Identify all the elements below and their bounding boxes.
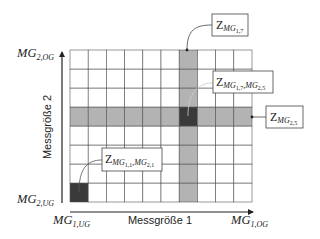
grid-cell: [197, 183, 215, 202]
grid-cell: [234, 145, 252, 164]
grid-cell: [234, 164, 252, 183]
row-callout: ZMG2,5: [252, 106, 303, 128]
grid-cell: [106, 183, 124, 202]
grid-cell: [197, 164, 215, 183]
grid-cell: [197, 126, 215, 145]
grid-cell: [197, 145, 215, 164]
grid-cell: [143, 183, 161, 202]
grid-cell: [143, 88, 161, 107]
grid-cell: [161, 69, 179, 88]
grid-cell: [70, 50, 88, 69]
zone-grid-diagram: MG2,OG MG2,UG Messgröße 2 MG1,UG Messgrö…: [0, 0, 320, 239]
grid-cell: [161, 126, 179, 145]
grid-cell: [197, 50, 215, 69]
grid-cell: [125, 183, 143, 202]
grid-cell: [161, 107, 179, 126]
grid-cell: [216, 50, 234, 69]
grid-cell: [234, 50, 252, 69]
grid-cell: [216, 126, 234, 145]
grid-cell: [143, 107, 161, 126]
grid-cell: [106, 50, 124, 69]
grid-cell: [161, 145, 179, 164]
grid-cell: [88, 183, 106, 202]
column-callout-connector: [187, 25, 212, 50]
grid-cell: [70, 88, 88, 107]
grid-cell: [216, 107, 234, 126]
grid-cell: [197, 107, 215, 126]
grid-cell: [234, 183, 252, 202]
x-axis-title: Messgröße 1: [128, 214, 192, 226]
grid-cell: [179, 145, 197, 164]
grid-cell: [179, 164, 197, 183]
grid-cell: [143, 69, 161, 88]
grid-cell: [125, 69, 143, 88]
grid-cell: [216, 164, 234, 183]
grid-cell: [234, 126, 252, 145]
grid-cell: [179, 126, 197, 145]
grid-cell: [143, 126, 161, 145]
grid-cell: [88, 69, 106, 88]
y-axis-max-label: MG2,OG: [16, 46, 54, 62]
grid-cell: [125, 126, 143, 145]
grid-cell: [106, 69, 124, 88]
y-axis-title: Messgröße 2: [41, 95, 53, 159]
grid-cell: [70, 145, 88, 164]
grid-cell: [70, 69, 88, 88]
grid-cell: [234, 107, 252, 126]
grid-cell: [179, 69, 197, 88]
grid-cell: [161, 183, 179, 202]
column-callout: ZMG1,7: [187, 14, 248, 50]
grid-cell: [161, 164, 179, 183]
grid-cell: [70, 107, 88, 126]
grid-cell: [216, 145, 234, 164]
grid-cell: [125, 107, 143, 126]
grid-cell: [106, 126, 124, 145]
grid-cell: [161, 50, 179, 69]
grid-cell: [125, 88, 143, 107]
grid-cell: [106, 88, 124, 107]
grid-cell: [88, 88, 106, 107]
x-axis-min-label: MG1,UG: [52, 213, 90, 229]
x-axis-max-label: MG1,OG: [230, 213, 268, 229]
grid-cell: [143, 50, 161, 69]
grid-cell: [179, 50, 197, 69]
grid-cell: [88, 50, 106, 69]
grid-cell: [161, 88, 179, 107]
y-axis-min-label: MG2,UG: [16, 192, 54, 208]
grid-cell: [216, 183, 234, 202]
grid-cell: [88, 107, 106, 126]
grid-cell: [70, 126, 88, 145]
grid-cell: [88, 126, 106, 145]
grid-cell: [106, 107, 124, 126]
grid-cell: [125, 50, 143, 69]
grid-cell: [179, 183, 197, 202]
